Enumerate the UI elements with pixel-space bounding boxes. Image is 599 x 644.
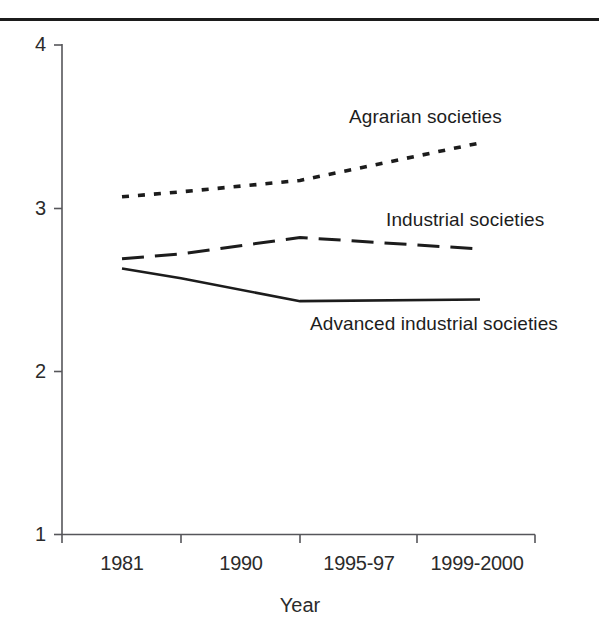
chart-figure: 4 3 2 1 1981 1990 1995-97 1999-2000 Year… [0, 0, 599, 644]
y-tick-label-4: 4 [12, 33, 46, 56]
x-tick-label-1981: 1981 [76, 552, 168, 575]
series-line-industrial-societies [122, 238, 480, 259]
x-tick-label-1990: 1990 [195, 552, 287, 575]
y-tick-label-1: 1 [12, 523, 46, 546]
series-label-advanced-industrial-societies: Advanced industrial societies [310, 313, 558, 335]
x-axis-title: Year [240, 594, 360, 617]
y-tick-label-2: 2 [12, 360, 46, 383]
series-label-industrial-societies: Industrial societies [386, 209, 544, 231]
x-tick-label-1995-97: 1995-97 [311, 552, 407, 575]
x-tick-label-1999-2000: 1999-2000 [419, 552, 535, 575]
series-line-agrarian-societies [122, 143, 480, 197]
y-tick-label-3: 3 [12, 197, 46, 220]
series-line-advanced-industrial-societies [122, 269, 480, 302]
series-label-agrarian-societies: Agrarian societies [349, 106, 502, 128]
